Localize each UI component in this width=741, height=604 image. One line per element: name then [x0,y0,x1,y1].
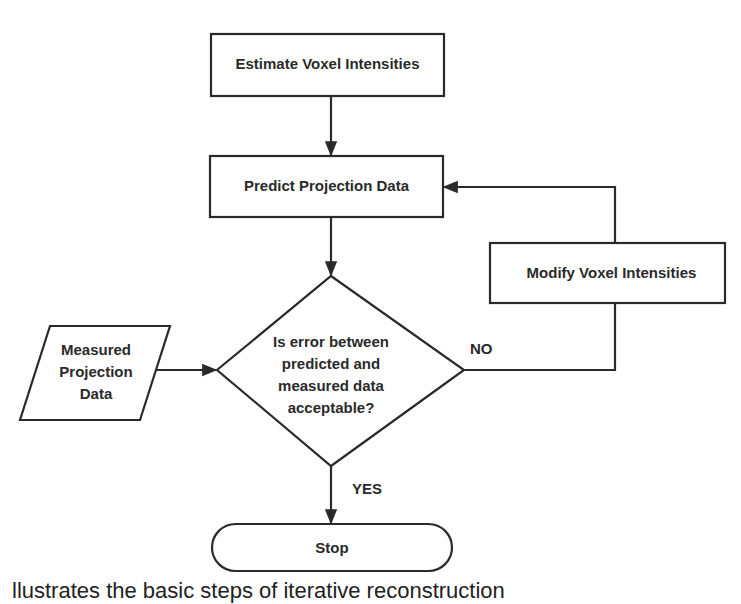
modify-label: Modify Voxel Intensities [490,264,725,283]
measured-line-3: Data [36,383,156,405]
edge-decision-to-modify [464,303,615,370]
stop-label: Stop [212,539,452,558]
edge-modify-to-predict [444,187,615,243]
decision-line-4: acceptable? [236,397,426,419]
no-edge-label: NO [470,340,493,359]
decision-line-3: measured data [236,375,426,397]
estimate-label: Estimate Voxel Intensities [211,55,444,74]
decision-line-2: predicted and [236,353,426,375]
measured-line-1: Measured [36,339,156,361]
decision-label: Is error between predicted and measured … [236,331,426,419]
measured-line-2: Projection [36,361,156,383]
predict-label: Predict Projection Data [210,177,443,196]
figure-caption: llustrates the basic steps of iterative … [12,578,505,604]
measured-label: Measured Projection Data [36,339,156,405]
yes-edge-label: YES [352,480,382,499]
decision-line-1: Is error between [236,331,426,353]
